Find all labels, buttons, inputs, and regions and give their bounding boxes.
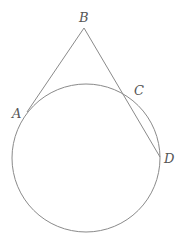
- geometry-diagram: A B C D: [0, 0, 183, 241]
- circle: [12, 84, 160, 232]
- tangent-segment-BA: [27, 28, 84, 112]
- point-label-B: B: [78, 10, 89, 25]
- secant-segment-BD: [84, 28, 160, 157]
- point-label-C: C: [134, 83, 144, 98]
- point-label-A: A: [11, 106, 21, 121]
- point-label-D: D: [163, 151, 175, 166]
